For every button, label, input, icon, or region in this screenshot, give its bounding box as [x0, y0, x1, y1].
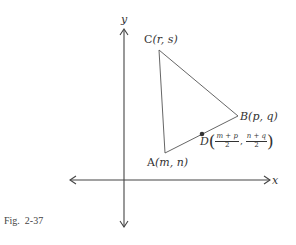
- point-d-y-fraction: n + q2: [246, 133, 267, 149]
- point-c-label: C(r, s): [144, 34, 178, 45]
- point-b-label: B(p, q): [240, 111, 278, 122]
- point-a-label: A(m, n): [147, 157, 188, 168]
- point-c-coords: (r, s): [152, 33, 177, 46]
- point-d-name: D: [200, 135, 209, 148]
- figure-caption-prefix: Fig.: [4, 215, 20, 226]
- point-a-name: A: [147, 156, 155, 169]
- point-b-coords: (p, q): [248, 110, 278, 123]
- point-d-separator: ,: [240, 136, 243, 146]
- point-d-close-paren: ): [267, 131, 274, 151]
- y-axis-label: y: [121, 14, 127, 25]
- y-axis: [120, 29, 128, 227]
- point-d-y-denominator: 2: [246, 142, 267, 150]
- x-axis: [70, 176, 270, 184]
- figure-caption-number: 2-37: [25, 215, 43, 226]
- x-axis-label: x: [272, 175, 278, 186]
- point-d-open-paren: (: [209, 131, 216, 151]
- point-a-coords: (m, n): [155, 156, 188, 169]
- point-d-x-denominator: 2: [215, 142, 238, 150]
- point-d-x-fraction: m + p2: [215, 133, 238, 149]
- point-d-label: D(m + p2,n + q2): [200, 133, 274, 150]
- figure-caption: Fig. 2-37: [4, 215, 43, 226]
- point-b-name: B: [240, 110, 248, 123]
